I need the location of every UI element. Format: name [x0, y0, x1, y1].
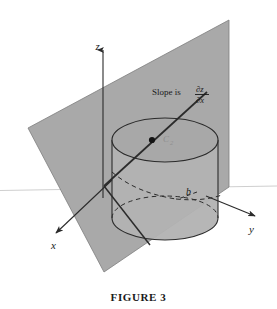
slope-fraction-denominator: ∂x: [196, 95, 204, 105]
tangent-point-marker: [149, 137, 155, 143]
x-axis-label: x: [50, 239, 56, 251]
curve-c-label: C: [163, 134, 170, 144]
slope-annotation-text: Slope is: [152, 87, 181, 97]
z-axis-label: z: [95, 40, 101, 52]
y-axis-label: y: [248, 223, 254, 235]
figure-3-diagram: z x y b C 2 Slope is ∂z ∂x: [0, 0, 277, 309]
slope-fraction-numerator: ∂z: [196, 84, 204, 94]
figure-caption: FIGURE 3: [0, 291, 277, 303]
point-b-label: b: [186, 186, 191, 197]
figure-container: z x y b C 2 Slope is ∂z ∂x FIGURE 3: [0, 0, 277, 309]
